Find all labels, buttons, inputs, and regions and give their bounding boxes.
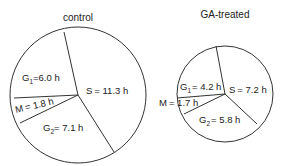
ga-label-m: M= 1.7 h [159,97,198,108]
control-label-g2: G2= 7.1 h [43,122,83,135]
control-pie: control G1=6.0 h S= 11.3 h M= 1.8 h G2= … [10,12,146,163]
ga-treated-title: GA-treated [201,9,250,20]
cell-cycle-pie-charts: control G1=6.0 h S= 11.3 h M= 1.8 h G2= … [0,0,285,166]
ga-label-s: S= 7.2 h [229,84,267,95]
ga-label-g1: G1= 4.2 h [180,81,221,94]
control-title: control [63,12,93,23]
ga-label-g2: G2= 5.8 h [199,114,240,127]
ga-treated-pie: GA-treated G1= 4.2 h S= 7.2 h M= 1.7 h G… [159,9,273,142]
control-label-s: S= 11.3 h [86,85,128,96]
control-label-g1: G1=6.0 h [22,72,60,85]
